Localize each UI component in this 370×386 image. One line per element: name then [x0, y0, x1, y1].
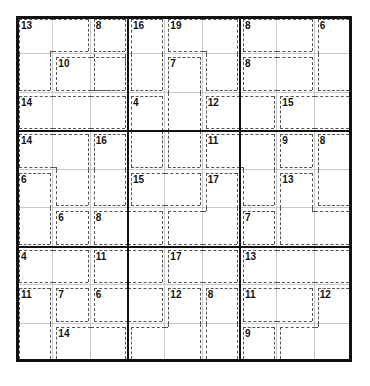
cell-r2c3[interactable]: [91, 54, 128, 92]
cell-r5c1[interactable]: [16, 170, 53, 208]
cell-r3c8[interactable]: [277, 93, 314, 131]
cell-r6c6[interactable]: [203, 208, 240, 246]
cell-r9c4[interactable]: [128, 324, 165, 362]
cell-r6c4[interactable]: [128, 208, 165, 246]
cell-r4c9[interactable]: [315, 131, 352, 169]
cell-r1c8[interactable]: [277, 16, 314, 54]
cell-r1c6[interactable]: [203, 16, 240, 54]
cell-r8c5[interactable]: [165, 285, 202, 323]
cell-r8c8[interactable]: [277, 285, 314, 323]
cell-r7c4[interactable]: [128, 247, 165, 285]
cell-r3c1[interactable]: [16, 93, 53, 131]
cell-r5c4[interactable]: [128, 170, 165, 208]
cell-r5c3[interactable]: [91, 170, 128, 208]
cell-r2c1[interactable]: [16, 54, 53, 92]
cell-r8c7[interactable]: [240, 285, 277, 323]
cell-r2c4[interactable]: [128, 54, 165, 92]
cell-r6c8[interactable]: [277, 208, 314, 246]
cell-r4c1[interactable]: [16, 131, 53, 169]
cell-r7c8[interactable]: [277, 247, 314, 285]
killer-sudoku-board: 1381014161974128681514166681115179813741…: [16, 16, 352, 362]
cell-r4c6[interactable]: [203, 131, 240, 169]
cell-r3c9[interactable]: [315, 93, 352, 131]
cell-r8c2[interactable]: [53, 285, 90, 323]
cell-r5c6[interactable]: [203, 170, 240, 208]
cell-r6c5[interactable]: [165, 208, 202, 246]
cell-r5c5[interactable]: [165, 170, 202, 208]
cell-r9c1[interactable]: [16, 324, 53, 362]
cell-r1c1[interactable]: [16, 16, 53, 54]
cell-r8c3[interactable]: [91, 285, 128, 323]
cell-r4c5[interactable]: [165, 131, 202, 169]
cell-r1c4[interactable]: [128, 16, 165, 54]
cell-r9c2[interactable]: [53, 324, 90, 362]
cell-r7c5[interactable]: [165, 247, 202, 285]
cell-r6c1[interactable]: [16, 208, 53, 246]
cell-r7c3[interactable]: [91, 247, 128, 285]
cell-r2c8[interactable]: [277, 54, 314, 92]
cell-r9c6[interactable]: [203, 324, 240, 362]
cell-r9c8[interactable]: [277, 324, 314, 362]
cell-r5c7[interactable]: [240, 170, 277, 208]
cell-r2c9[interactable]: [315, 54, 352, 92]
cell-r6c7[interactable]: [240, 208, 277, 246]
cell-r7c6[interactable]: [203, 247, 240, 285]
cell-r4c4[interactable]: [128, 131, 165, 169]
cell-r3c5[interactable]: [165, 93, 202, 131]
cell-r4c7[interactable]: [240, 131, 277, 169]
cell-r3c6[interactable]: [203, 93, 240, 131]
cell-r3c7[interactable]: [240, 93, 277, 131]
cell-r9c7[interactable]: [240, 324, 277, 362]
cell-r1c3[interactable]: [91, 16, 128, 54]
cell-r6c2[interactable]: [53, 208, 90, 246]
cell-r3c2[interactable]: [53, 93, 90, 131]
cell-r1c5[interactable]: [165, 16, 202, 54]
cell-r1c9[interactable]: [315, 16, 352, 54]
cell-r4c2[interactable]: [53, 131, 90, 169]
cell-r5c2[interactable]: [53, 170, 90, 208]
cell-r4c3[interactable]: [91, 131, 128, 169]
cell-r5c8[interactable]: [277, 170, 314, 208]
cell-r2c5[interactable]: [165, 54, 202, 92]
cell-r3c3[interactable]: [91, 93, 128, 131]
cell-r6c3[interactable]: [91, 208, 128, 246]
cell-r9c9[interactable]: [315, 324, 352, 362]
cell-r6c9[interactable]: [315, 208, 352, 246]
cell-r7c9[interactable]: [315, 247, 352, 285]
cell-r1c2[interactable]: [53, 16, 90, 54]
cell-r7c1[interactable]: [16, 247, 53, 285]
cell-r9c5[interactable]: [165, 324, 202, 362]
cell-r2c2[interactable]: [53, 54, 90, 92]
cell-r4c8[interactable]: [277, 131, 314, 169]
cell-r3c4[interactable]: [128, 93, 165, 131]
cell-r2c6[interactable]: [203, 54, 240, 92]
cell-r1c7[interactable]: [240, 16, 277, 54]
cell-r8c6[interactable]: [203, 285, 240, 323]
cell-r8c4[interactable]: [128, 285, 165, 323]
cell-r7c2[interactable]: [53, 247, 90, 285]
cell-r8c1[interactable]: [16, 285, 53, 323]
cell-r8c9[interactable]: [315, 285, 352, 323]
cell-r9c3[interactable]: [91, 324, 128, 362]
cell-r5c9[interactable]: [315, 170, 352, 208]
cell-r2c7[interactable]: [240, 54, 277, 92]
cell-r7c7[interactable]: [240, 247, 277, 285]
